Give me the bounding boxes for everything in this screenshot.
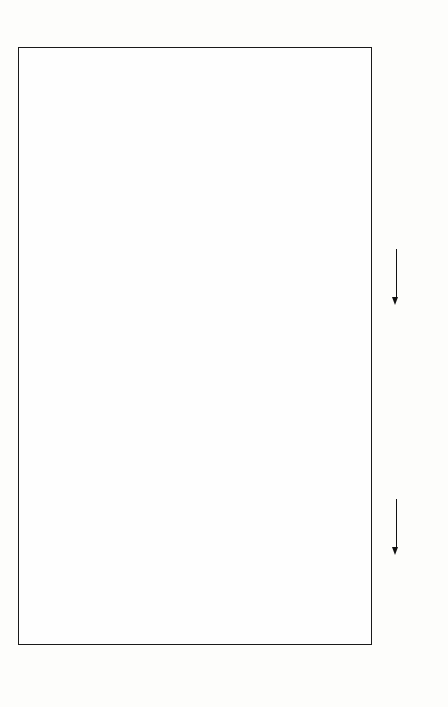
power-curve-chart xyxy=(0,0,448,707)
plot-svg xyxy=(19,48,371,644)
x-axis-arrowhead-alpha-005 xyxy=(392,547,398,555)
x-axis-arrow-alpha-001 xyxy=(396,249,397,297)
x-axis-arrow-alpha-005 xyxy=(396,499,397,547)
plot-area xyxy=(18,47,372,645)
grid-and-curves-layer xyxy=(19,48,371,644)
x-axis-arrowhead-alpha-001 xyxy=(392,297,398,305)
